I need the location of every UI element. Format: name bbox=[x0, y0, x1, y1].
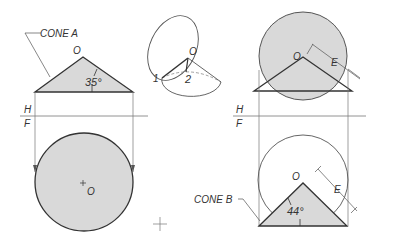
e-label: E bbox=[331, 57, 338, 68]
extension-line bbox=[348, 69, 360, 78]
f-label: F bbox=[24, 118, 31, 129]
apex-o-label: O bbox=[73, 45, 81, 56]
base-ellipse-back bbox=[162, 72, 221, 82]
center-o-label: O bbox=[87, 186, 95, 197]
h-label: H bbox=[236, 104, 244, 115]
cone-projection-diagram: 35° O CONE A H F O O 1 2 bbox=[0, 0, 393, 248]
apex-o-label: O bbox=[292, 171, 300, 182]
h-label: H bbox=[24, 104, 32, 115]
base-ellipse-front bbox=[162, 78, 221, 96]
point-2-label: 2 bbox=[184, 73, 191, 85]
cone-a-top-view: 35° O CONE A bbox=[25, 28, 133, 92]
crosshair-mark-icon bbox=[153, 217, 167, 231]
point-1-label: 1 bbox=[153, 73, 159, 84]
cone-b-top-view: O E bbox=[254, 12, 360, 100]
angle-44-label: 44° bbox=[287, 205, 304, 217]
angle-35-label: 35° bbox=[85, 76, 102, 88]
cone-a-leader bbox=[25, 33, 50, 77]
cone-b-label: CONE B bbox=[194, 194, 233, 205]
apex-o-label: O bbox=[189, 46, 197, 57]
cone-b-leader bbox=[238, 199, 260, 221]
tilted-ellipse bbox=[138, 7, 208, 88]
cone-a-label: CONE A bbox=[40, 28, 78, 39]
pictorial-cone: O 1 2 bbox=[138, 7, 221, 96]
cone-a-base-circle bbox=[35, 133, 133, 231]
cone-side-line bbox=[188, 58, 221, 82]
apex-o-label: O bbox=[293, 51, 301, 62]
f-label: F bbox=[236, 118, 243, 129]
top-circle bbox=[259, 12, 347, 100]
cone-a-triangle bbox=[35, 57, 133, 92]
cone-b-front-view: O 44° E CONE B bbox=[194, 135, 357, 226]
e-label: E bbox=[334, 184, 341, 195]
cone-a-front-view: O bbox=[35, 133, 133, 231]
